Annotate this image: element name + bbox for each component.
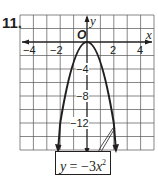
- equation-label: y = −3x2: [55, 151, 111, 175]
- y-axis-label: y: [90, 13, 96, 29]
- origin-label: O: [77, 28, 86, 42]
- x-axis-label: x: [146, 27, 152, 43]
- y-tick-neg4: −4: [76, 63, 89, 75]
- x-tick-2: 2: [110, 44, 116, 56]
- x-tick-4: 4: [137, 44, 143, 56]
- y-axis-up-arrow-icon: [85, 15, 90, 22]
- y-tick-neg8: −8: [76, 90, 89, 102]
- x-tick-neg4: −4: [23, 44, 36, 56]
- y-tick-neg12: −12: [70, 117, 89, 129]
- x-tick-neg2: −2: [50, 44, 63, 56]
- axes: [22, 17, 152, 150]
